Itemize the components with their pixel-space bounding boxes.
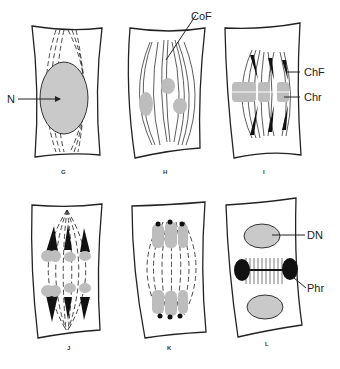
caption-k: K (167, 345, 172, 351)
label-chf: ChF (304, 66, 325, 78)
panel-l: DN Phr L (226, 198, 324, 347)
label-dn: DN (307, 229, 323, 241)
caption-i: I (263, 169, 265, 175)
caption-j: J (67, 345, 70, 351)
label-n: N (7, 93, 15, 105)
panel-k: K (132, 202, 206, 351)
label-phr: Phr (307, 282, 324, 294)
daughter-nucleus-bottom (247, 295, 283, 319)
panel-j: J (32, 204, 102, 351)
label-cof: CoF (191, 10, 212, 22)
panel-h: CoF H (128, 10, 212, 175)
panel-g: N G (7, 26, 102, 175)
nucleus-shape (40, 62, 88, 134)
label-chr: Chr (304, 91, 322, 103)
caption-l: L (265, 341, 269, 347)
daughter-nucleus-top (244, 224, 280, 248)
caption-h: H (163, 169, 167, 175)
panel-i: ChF Chr I (225, 23, 325, 175)
mitosis-diagram: N G CoF H (0, 0, 340, 369)
caption-g: G (61, 169, 66, 175)
